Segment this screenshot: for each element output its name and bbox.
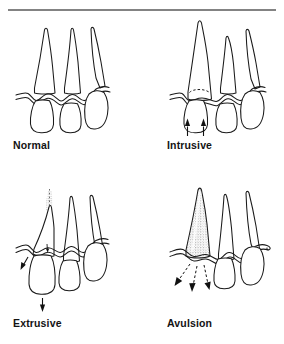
arrow-extrusive-1: [21, 257, 29, 270]
tooth-intruded: [188, 21, 212, 101]
crown-canine-normal: [85, 91, 108, 129]
crown-extruded: [29, 255, 55, 294]
arrow-avulsion-1: [175, 264, 191, 286]
tooth-lateral-incisor-normal: [65, 28, 81, 94]
panel-extrusive: [16, 189, 109, 312]
crown-central-normal: [30, 100, 53, 133]
empty-socket-avulsion: [186, 188, 210, 258]
crown-canine-intrusive: [241, 91, 264, 129]
panel-label-intrusive: Intrusive: [167, 139, 212, 151]
panel-label-avulsion: Avulsion: [167, 317, 212, 329]
tooth-canine-intrusive: [246, 29, 260, 89]
panel-avulsion: [170, 188, 270, 292]
dental-trauma-figure: [0, 0, 284, 344]
crown-lateral-extrusive: [59, 260, 80, 291]
panel-label-normal: Normal: [13, 139, 50, 151]
tooth-lateral-incisor-avulsion: [219, 194, 235, 260]
arrow-avulsion-3: [204, 265, 211, 290]
crown-lateral-intrusive: [216, 103, 237, 133]
panel-normal: [16, 27, 110, 132]
arrow-extrusive-2: [40, 298, 45, 312]
crown-canine-extrusive: [84, 243, 107, 281]
crown-lateral-normal: [60, 103, 81, 133]
panel-label-extrusive: Extrusive: [13, 317, 62, 329]
arrow-avulsion-2: [189, 266, 197, 292]
crown-canine-avulsion: [241, 247, 264, 285]
tooth-lateral-incisor-intrusive: [221, 36, 237, 94]
tooth-central-incisor-normal: [35, 28, 56, 94]
tooth-canine-avulsion: [246, 191, 260, 254]
crown-lateral-avulsion: [214, 258, 235, 289]
tooth-canine-normal: [91, 27, 105, 88]
tooth-lateral-incisor-extrusive: [64, 196, 80, 262]
panel-intrusive: [170, 21, 266, 136]
